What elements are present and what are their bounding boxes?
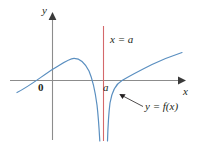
curve-left-branch	[17, 58, 100, 141]
asymptote-label: x = a	[110, 34, 133, 45]
x-axis-label: x	[183, 86, 188, 97]
a-tick-label: a	[103, 82, 109, 93]
x-axis-arrowhead	[178, 77, 186, 85]
y-axis-arrowhead	[49, 12, 57, 20]
graph-svg	[0, 0, 203, 154]
leader-line	[122, 96, 143, 107]
figure-canvas: y x 0 a x = a y = f(x)	[0, 0, 203, 154]
curve-label-leader	[119, 94, 143, 106]
curve-label: y = f(x)	[145, 101, 178, 112]
origin-label: 0	[38, 82, 44, 93]
y-axis-label: y	[42, 5, 47, 16]
y-axis	[49, 12, 57, 140]
curve-right-branch	[108, 53, 183, 142]
